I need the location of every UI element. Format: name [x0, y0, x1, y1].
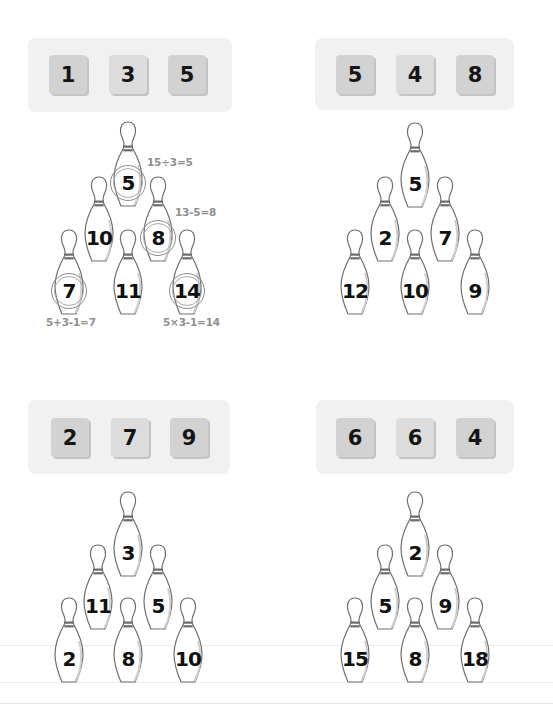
bowling-pin-bottom-middle: 11: [112, 229, 144, 315]
pin-number: 8: [106, 647, 150, 671]
bowling-pin-bottom-left: 7: [53, 229, 85, 315]
bowling-pin-bottom-left: 12: [339, 229, 371, 315]
bowling-pin-middle-left: 11: [82, 544, 114, 630]
annotation-middle-right: 13-5=8: [175, 206, 216, 218]
bowling-pin-top: 2: [399, 491, 431, 577]
annotation-top: 15÷3=5: [147, 156, 193, 168]
bowling-pin-bottom-middle: 8: [399, 597, 431, 683]
bowling-pin-bottom-right: 18: [459, 597, 491, 683]
bowling-pin-middle-right: 7: [429, 176, 461, 262]
number-tile: 8: [456, 55, 494, 94]
bowling-pin-middle-right: 9: [429, 544, 461, 630]
bowling-pin-top: 5: [399, 122, 431, 208]
bowling-pin-bottom-middle: 8: [112, 597, 144, 683]
bowling-pin-middle-left: 5: [369, 544, 401, 630]
bowling-pin-top: 3: [112, 491, 144, 577]
pin-number: 14: [165, 279, 209, 303]
bowling-pin-bottom-left: 2: [53, 597, 85, 683]
bowling-pin-top: 5: [112, 121, 144, 207]
bowling-pin-bottom-right: 9: [459, 229, 491, 315]
pin-number: 7: [47, 279, 91, 303]
number-tile: 2: [51, 418, 89, 457]
pin-number: 10: [166, 647, 210, 671]
bowling-pin-bottom-left: 15: [339, 597, 371, 683]
ruled-line: [0, 703, 553, 704]
number-tile: 3: [109, 55, 147, 94]
bowling-pin-bottom-right: 14: [171, 229, 203, 315]
number-tile: 7: [111, 418, 149, 457]
bowling-pin-middle-right: 5: [142, 544, 174, 630]
pin-number: 18: [453, 647, 497, 671]
pin-number: 15: [333, 647, 377, 671]
number-tile: 4: [396, 55, 434, 94]
pin-number: 10: [393, 279, 437, 303]
number-tile: 1: [49, 55, 87, 94]
pin-number: 2: [47, 647, 91, 671]
pin-number: 8: [393, 647, 437, 671]
bowling-pin-middle-right: 8: [142, 176, 174, 262]
annotation-bottom-left: 5+3-1=7: [46, 316, 96, 328]
bowling-pin-middle-left: 10: [83, 176, 115, 262]
number-tile: 6: [396, 418, 434, 457]
number-tile: 4: [456, 418, 494, 457]
number-tile: 9: [170, 418, 208, 457]
number-tile: 6: [336, 418, 374, 457]
bowling-pin-bottom-middle: 10: [399, 229, 431, 315]
pin-number: 11: [106, 279, 150, 303]
annotation-bottom-right: 5×3-1=14: [163, 316, 220, 328]
number-tile: 5: [336, 55, 374, 94]
bowling-pin-bottom-right: 10: [172, 597, 204, 683]
bowling-pin-middle-left: 2: [369, 176, 401, 262]
pin-number: 9: [453, 279, 497, 303]
pin-number: 12: [333, 279, 377, 303]
number-tile: 5: [168, 55, 206, 94]
